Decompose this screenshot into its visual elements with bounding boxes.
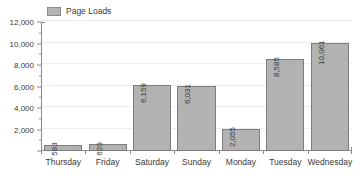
chart-legend: Page Loads: [47, 4, 111, 18]
y-axis-tick-label: 2,000: [14, 125, 34, 134]
x-axis-tick: [263, 151, 264, 154]
bar-slot: 620: [85, 22, 129, 151]
bar-slot: 8,585: [263, 22, 307, 151]
x-axis: ThursdayFridaySaturdaySundayMondayTuesda…: [41, 151, 352, 180]
bar-value-label: 6,159: [139, 83, 148, 103]
y-axis-tick-label: 6,000: [14, 82, 34, 91]
bar-slot: 6,159: [130, 22, 174, 151]
bar-value-label: 10,061: [316, 41, 325, 65]
bar-value-label: 6,031: [183, 84, 192, 104]
x-axis-tick-label: Saturday: [135, 157, 169, 167]
x-axis-tick: [85, 151, 86, 154]
x-axis-tick: [351, 151, 352, 154]
x-axis-tick-label: Sunday: [182, 157, 211, 167]
y-axis-tick-label: 4,000: [14, 104, 34, 113]
bar-chart: Page Loads 2,0004,0006,0008,00010,00012,…: [0, 0, 360, 180]
y-axis: 2,0004,0006,0008,00010,00012,000: [0, 22, 41, 152]
bar-value-label: 8,585: [272, 57, 281, 77]
bar-slot: 10,061: [308, 22, 352, 151]
bar-slot: 583: [41, 22, 85, 151]
y-axis-tick-label: 12,000: [10, 18, 34, 27]
gridline: [42, 20, 352, 21]
x-axis-tick-label: Friday: [96, 157, 120, 167]
bar-slot: 6,031: [174, 22, 218, 151]
x-axis-tick: [130, 151, 131, 154]
bar-slot: 2,055: [219, 22, 263, 151]
y-axis-tick-label: 8,000: [14, 61, 34, 70]
bar-value-label: 2,055: [227, 127, 236, 147]
x-axis-tick: [174, 151, 175, 154]
x-axis-tick: [308, 151, 309, 154]
legend-swatch-page-loads: [47, 7, 61, 16]
x-axis-tick-label: Monday: [226, 157, 256, 167]
bar-series-page-loads: 5836206,1596,0312,0558,58510,061: [41, 22, 352, 151]
x-axis-tick-label: Wednesday: [307, 157, 352, 167]
x-axis-tick-label: Tuesday: [269, 157, 301, 167]
x-axis-tick: [41, 151, 42, 154]
legend-label-page-loads: Page Loads: [66, 6, 111, 16]
y-axis-tick-label: 10,000: [10, 39, 34, 48]
x-axis-tick-label: Thursday: [45, 157, 80, 167]
x-axis-tick: [219, 151, 220, 154]
